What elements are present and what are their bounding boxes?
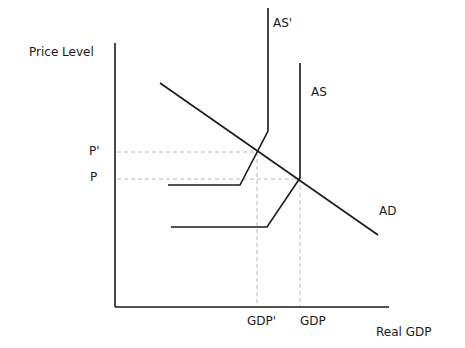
as-prime-curve [168, 8, 268, 185]
y-axis-label: Price Level [29, 45, 94, 59]
p-label: P [90, 170, 97, 184]
x-axis-label: Real GDP [376, 325, 431, 339]
gdp-label: GDP [300, 314, 326, 328]
ad-curve [160, 83, 378, 235]
ad-label: AD [379, 204, 396, 218]
ad-as-diagram: Price Level Real GDP P' P GDP' GDP AS' A… [0, 0, 465, 348]
as-curve [171, 63, 300, 227]
gdp-prime-label: GDP' [247, 314, 276, 328]
as-prime-label: AS' [273, 16, 292, 30]
as-label: AS [311, 85, 327, 99]
p-prime-label: P' [89, 144, 100, 158]
